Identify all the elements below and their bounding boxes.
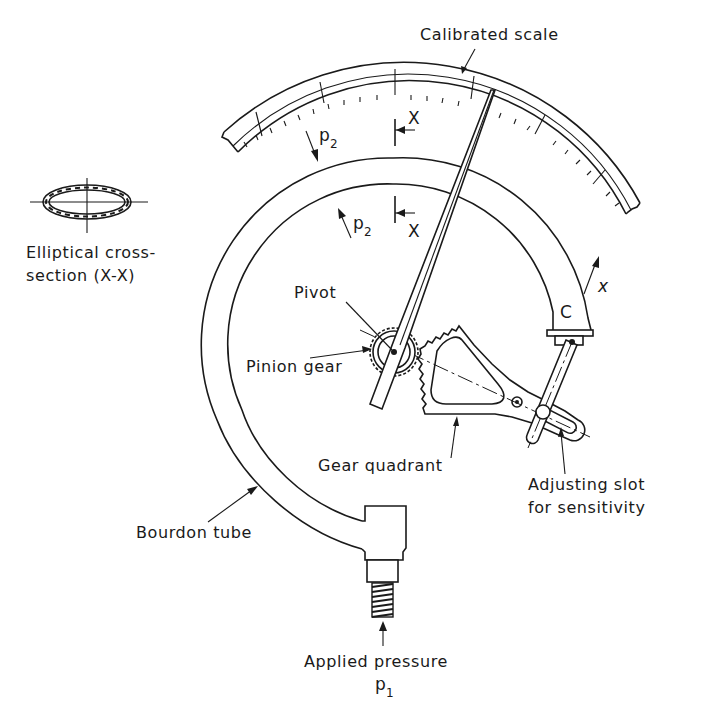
elliptical-cross-section <box>30 178 148 233</box>
p2-inner-subscript: 2 <box>364 225 372 239</box>
threaded-end <box>372 583 393 617</box>
bourdon-gauge-diagram: Calibrated scale C x X X p 2 <box>0 0 707 708</box>
section-mark-top-label: X <box>408 108 420 128</box>
p2-outer-arrow <box>306 131 318 162</box>
section-mark-bottom-label: X <box>408 221 420 241</box>
p2-inner-arrow <box>338 208 351 238</box>
bourdon-tube-leader <box>208 486 258 522</box>
adjusting-slot-label-line2: for sensitivity <box>528 498 646 517</box>
applied-pressure-arrow <box>379 621 387 646</box>
calibrated-scale-label: Calibrated scale <box>420 25 559 44</box>
calibrated-scale <box>222 62 640 214</box>
p1-subscript: 1 <box>386 686 394 700</box>
adjusting-slot-label-line1: Adjusting slot <box>528 475 645 494</box>
p2-inner-symbol: p <box>353 213 364 233</box>
tip-label-c: C <box>560 302 572 322</box>
pivot-label: Pivot <box>294 283 336 302</box>
gear-quadrant-leader <box>451 416 459 458</box>
p1-symbol: p <box>375 674 386 694</box>
cross-section-label-line2: section (X-X) <box>26 266 135 285</box>
p2-outer-symbol: p <box>319 125 330 145</box>
p2-outer-subscript: 2 <box>330 137 338 151</box>
bourdon-tube-label: Bourdon tube <box>136 523 252 542</box>
cross-section-label-line1: Elliptical cross- <box>26 243 156 262</box>
scale-minor-ticks <box>244 95 619 206</box>
gear-quadrant-label: Gear quadrant <box>318 456 443 475</box>
pinion-gear-label: Pinion gear <box>246 357 342 376</box>
socket-fitting <box>362 506 406 617</box>
displacement-arrow <box>584 256 599 294</box>
section-mark-bottom <box>395 196 415 223</box>
applied-pressure-label: Applied pressure <box>304 652 448 671</box>
displacement-symbol: x <box>597 276 609 296</box>
pivot-leader <box>346 302 392 350</box>
